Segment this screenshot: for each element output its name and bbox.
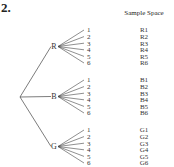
branch-line-g: [20, 97, 51, 147]
node-label-b: B: [51, 92, 56, 101]
sample-space-item: R6: [140, 59, 149, 67]
outcome-label: 6: [87, 59, 91, 67]
node-label-g: G: [51, 142, 57, 151]
sample-space-item: B6: [140, 109, 149, 117]
node-label-r: R: [51, 42, 57, 51]
outcome-label: 6: [87, 159, 91, 167]
sample-space-item: G6: [140, 159, 149, 167]
branch-line-b: [20, 97, 51, 98]
outcome-label: 6: [87, 109, 91, 117]
branch-line-r: [20, 47, 51, 98]
tree-diagram: R1R12R23R34R45R56R6B1B12B23B34B45B56B6G1…: [0, 0, 174, 167]
